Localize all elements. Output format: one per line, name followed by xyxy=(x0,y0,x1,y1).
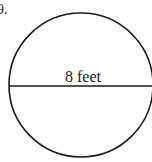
problem-number: 9. xyxy=(0,2,8,18)
circle-diagram: 9. 8 feet xyxy=(0,0,152,162)
diameter-label: 8 feet xyxy=(65,68,102,85)
circle-figure: 8 feet xyxy=(0,0,152,162)
circle-outline xyxy=(9,13,152,157)
